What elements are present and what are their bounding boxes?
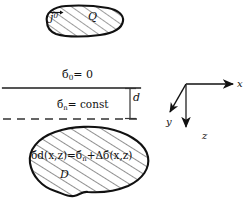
eq-rhs-second-args: (x,z) <box>109 149 132 161</box>
coordinate-axes <box>170 84 233 127</box>
depth-label: d <box>133 92 140 103</box>
vector-arrow-icon <box>50 10 53 14</box>
eq-equals: = <box>67 149 76 161</box>
axis-x-label: x <box>237 79 243 89</box>
domain-label: D <box>60 169 69 180</box>
axis-z-label: z <box>202 131 207 141</box>
source-current-label: j 0 <box>50 12 58 23</box>
normal-equation-rhs: = const <box>68 98 109 110</box>
normal-conductivity-equation: бn= const <box>57 99 109 111</box>
eq-lhs-args: (x,z) <box>44 149 67 161</box>
surface-equation-rhs: = 0 <box>73 68 93 81</box>
vector-j-wrap: j <box>50 12 53 23</box>
axis-y-line <box>170 84 186 112</box>
eq-delta: Δ <box>95 149 103 161</box>
surface-conductivity-equation: б0= 0 <box>62 69 93 81</box>
axis-y-label: y <box>166 117 172 127</box>
sigma-symbol-surface: б <box>62 68 69 81</box>
source-charge-label: Q <box>88 11 97 22</box>
figure-canvas: j 0 Q б0= 0 бn= const d x y z бd(x,z)=бn… <box>0 0 251 203</box>
domain-conductivity-equation: бd(x,z)=бn+Δб(x,z) <box>31 150 132 162</box>
figure-vector-layer <box>0 0 251 203</box>
